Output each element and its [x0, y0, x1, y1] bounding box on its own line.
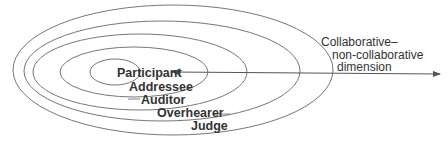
axis-label-line1: Collaborative–	[321, 35, 398, 49]
label-judge: Judge	[191, 119, 228, 133]
label-participant: Participant	[117, 66, 182, 80]
label-overhearer: Overhearer	[157, 106, 224, 120]
label-auditor: Auditor	[141, 93, 186, 107]
collaborative-axis-arrow	[172, 72, 440, 74]
audience-design-diagram: Participant Addressee Auditor Overhearer…	[0, 0, 448, 142]
axis-label-line3: dimension	[337, 60, 392, 74]
label-addressee: Addressee	[129, 80, 193, 94]
